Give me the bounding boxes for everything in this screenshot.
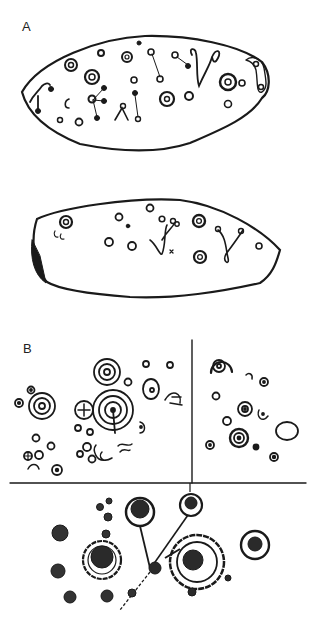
panel-b-right <box>206 360 298 461</box>
panel-b-left <box>15 359 182 475</box>
stone-a-lower <box>32 199 280 297</box>
stippled-carving <box>51 483 269 610</box>
rock-art-figure <box>0 0 316 629</box>
stone-a-upper <box>22 36 269 150</box>
